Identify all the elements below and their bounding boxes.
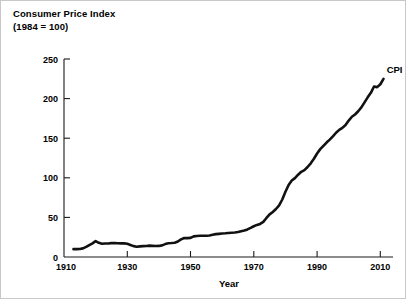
y-tick-label-50: 50 [48, 213, 58, 223]
cpi-chart-figure: Consumer Price Index (1984 = 100) 250 20… [0, 0, 406, 299]
y-tick-label-150: 150 [43, 134, 58, 144]
x-tick-label-1990: 1990 [307, 262, 327, 272]
x-axis-group: 1910 1930 1950 1970 1990 2010 Year [56, 251, 393, 289]
y-tick-label-200: 200 [43, 94, 58, 104]
x-tick-label-1910: 1910 [56, 262, 76, 272]
x-axis-title: Year [219, 278, 239, 289]
x-tick-label-1950: 1950 [180, 262, 200, 272]
cpi-series-label: CPI [387, 64, 403, 75]
y-tick-label-0: 0 [53, 253, 58, 263]
x-tick-label-1930: 1930 [117, 262, 137, 272]
chart-plot-area: 250 200 150 100 50 0 1910 1930 1950 1970… [1, 1, 406, 299]
y-tick-label-100: 100 [43, 173, 58, 183]
x-tick-label-2010: 2010 [370, 262, 390, 272]
y-tick-label-250: 250 [43, 55, 58, 65]
y-axis-group: 250 200 150 100 50 0 [43, 55, 70, 263]
cpi-data-line [73, 79, 383, 249]
x-tick-label-1970: 1970 [244, 262, 264, 272]
